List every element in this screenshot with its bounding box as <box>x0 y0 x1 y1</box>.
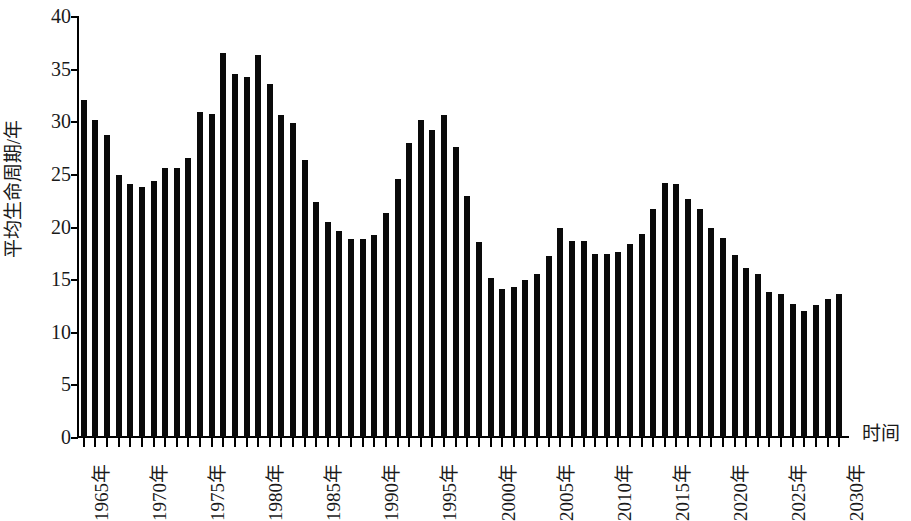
x-tick-mark <box>675 438 677 447</box>
x-tick-mark <box>118 438 120 447</box>
x-tick-label: 2015年 <box>673 464 692 521</box>
bar <box>360 239 366 437</box>
x-tick-mark <box>745 438 747 447</box>
x-tick-mark <box>571 438 573 447</box>
x-tick-mark <box>734 438 736 447</box>
x-tick-mark <box>246 438 248 447</box>
x-axis-title: 时间 <box>862 424 900 443</box>
bar <box>185 158 191 437</box>
bar <box>673 184 679 437</box>
x-tick-mark <box>827 438 829 447</box>
bar <box>267 84 273 437</box>
bar <box>499 289 505 437</box>
x-tick-mark <box>559 438 561 447</box>
bar <box>429 130 435 437</box>
bar <box>662 183 668 437</box>
x-tick-label: 1990年 <box>382 464 401 521</box>
x-tick-mark <box>629 438 631 447</box>
y-tick-label: 40 <box>51 6 71 26</box>
y-axis-title: 平均生命周期/年 <box>4 120 23 258</box>
x-tick-mark <box>153 438 155 447</box>
y-tick-label: 25 <box>51 164 71 184</box>
y-tick-label: 15 <box>51 269 71 289</box>
x-tick-mark <box>222 438 224 447</box>
bar <box>336 231 342 437</box>
x-tick-label: 2010年 <box>615 464 634 521</box>
x-tick-mark <box>315 438 317 447</box>
bar <box>209 114 215 437</box>
x-tick-mark <box>176 438 178 447</box>
y-tick-mark <box>71 437 78 439</box>
bar <box>581 241 587 437</box>
x-tick-mark <box>304 438 306 447</box>
bar <box>615 252 621 437</box>
x-tick-mark <box>641 438 643 447</box>
bar <box>639 234 645 437</box>
bar <box>139 187 145 437</box>
x-tick-label: 2000年 <box>499 464 518 521</box>
y-tick-mark <box>71 279 78 281</box>
bar <box>592 254 598 437</box>
bar <box>755 274 761 437</box>
x-tick-mark <box>757 438 759 447</box>
y-tick-label: 10 <box>51 322 71 342</box>
y-tick-mark <box>71 174 78 176</box>
x-tick-mark <box>420 438 422 447</box>
x-tick-mark <box>431 438 433 447</box>
x-tick-mark <box>350 438 352 447</box>
bar <box>302 160 308 437</box>
bar <box>650 209 656 437</box>
bar <box>325 222 331 437</box>
x-tick-mark <box>373 438 375 447</box>
x-tick-mark <box>466 438 468 447</box>
bar <box>836 294 842 437</box>
chart-page: 平均生命周期/年 时间 0510152025303540 1965年1970年1… <box>0 0 911 521</box>
x-tick-mark <box>524 438 526 447</box>
x-tick-mark <box>687 438 689 447</box>
y-tick-mark <box>71 332 78 334</box>
bar <box>220 53 226 437</box>
y-tick-label: 20 <box>51 217 71 237</box>
bar <box>813 305 819 437</box>
x-tick-mark <box>768 438 770 447</box>
x-tick-mark <box>803 438 805 447</box>
x-tick-mark <box>164 438 166 447</box>
y-tick-label: 0 <box>61 427 71 447</box>
bar <box>732 255 738 437</box>
bar <box>313 202 319 437</box>
x-tick-label: 1970年 <box>150 464 169 521</box>
x-tick-mark <box>792 438 794 447</box>
bar <box>790 304 796 437</box>
bar <box>92 120 98 437</box>
x-tick-mark <box>362 438 364 447</box>
bar <box>697 209 703 437</box>
x-tick-mark <box>327 438 329 447</box>
x-tick-mark <box>815 438 817 447</box>
x-tick-mark <box>536 438 538 447</box>
bar <box>825 299 831 437</box>
bar <box>511 287 517 438</box>
bar <box>464 196 470 437</box>
x-tick-mark <box>780 438 782 447</box>
x-tick-label: 1975年 <box>208 464 227 521</box>
x-tick-mark <box>292 438 294 447</box>
bar <box>371 235 377 437</box>
y-tick-label: 30 <box>51 111 71 131</box>
x-tick-label: 2025年 <box>789 464 808 521</box>
x-tick-mark <box>583 438 585 447</box>
x-tick-mark <box>83 438 85 447</box>
bar <box>162 168 168 437</box>
y-tick-mark <box>71 69 78 71</box>
bar <box>290 123 296 437</box>
bar <box>627 244 633 437</box>
bar <box>766 292 772 437</box>
bar <box>383 213 389 437</box>
bar <box>476 242 482 437</box>
bar <box>81 100 87 437</box>
bar <box>557 228 563 437</box>
bar <box>116 175 122 437</box>
y-tick-mark <box>71 227 78 229</box>
bar <box>569 241 575 437</box>
x-tick-mark <box>594 438 596 447</box>
x-tick-mark <box>710 438 712 447</box>
